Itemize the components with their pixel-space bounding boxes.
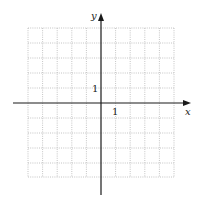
x-axis-label: x	[185, 106, 191, 117]
y-axis-label: y	[90, 10, 97, 21]
y-axis	[98, 13, 104, 195]
y-tick-label-1: 1	[92, 83, 98, 94]
x-tick-label-1: 1	[112, 106, 118, 117]
coordinate-plane: x y 1 1	[0, 0, 202, 204]
y-axis-arrow-icon	[98, 13, 104, 21]
x-axis	[13, 100, 191, 106]
